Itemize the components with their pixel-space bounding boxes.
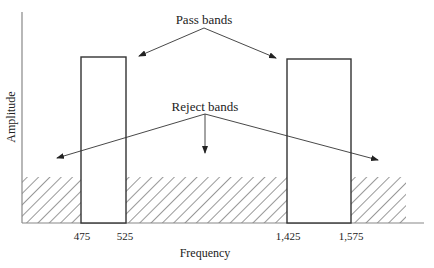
tick-label-475: 475 (74, 230, 91, 242)
pass-bands-label: Pass bands (176, 12, 233, 27)
bandpass-diagram: Pass bands Reject bands 475 525 1,425 1,… (0, 0, 434, 268)
y-axis-label: Amplitude (4, 91, 18, 142)
pass-bands-arrows (139, 28, 276, 58)
tick-label-525: 525 (117, 230, 134, 242)
x-axis-label: Frequency (180, 246, 231, 260)
tick-label-1575: 1,575 (339, 230, 364, 242)
pass-band-1 (81, 57, 126, 223)
pass-band-2 (287, 59, 351, 223)
reject-bands-label: Reject bands (172, 99, 239, 114)
tick-label-1425: 1,425 (276, 230, 301, 242)
